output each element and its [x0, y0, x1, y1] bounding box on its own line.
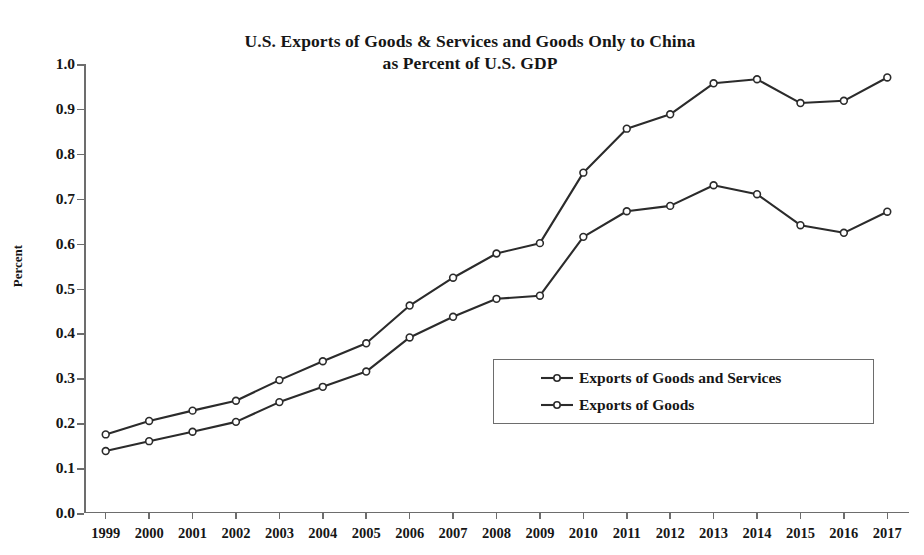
x-tick-label: 2010 [569, 525, 598, 542]
y-tick-label: 0.9 [56, 100, 75, 118]
data-point [797, 222, 804, 229]
data-point [406, 334, 413, 341]
y-tick-mark [77, 109, 84, 111]
x-tick-label: 2004 [308, 525, 337, 542]
y-tick-label: 0.3 [56, 369, 75, 387]
y-tick-mark [77, 333, 84, 335]
y-tick-label: 0.6 [56, 235, 75, 253]
y-tick-label: 1.0 [56, 55, 75, 73]
data-point [450, 313, 457, 320]
data-point [319, 358, 326, 365]
y-tick-mark [77, 244, 84, 246]
x-tick-label: 2005 [352, 525, 381, 542]
legend-marker-icon [540, 372, 574, 384]
data-point [884, 208, 891, 215]
data-point [406, 302, 413, 309]
x-tick-label: 2016 [829, 525, 858, 542]
data-point [884, 74, 891, 81]
x-tick-label: 2002 [221, 525, 250, 542]
data-point [276, 377, 283, 384]
data-point [667, 111, 674, 118]
x-tick-label: 2009 [525, 525, 554, 542]
data-point [363, 340, 370, 347]
plot-area: 0.00.10.20.30.40.50.60.70.80.91.0 199920… [84, 64, 909, 513]
y-tick-mark [77, 378, 84, 380]
data-point [146, 418, 153, 425]
data-point [189, 407, 196, 414]
data-point [754, 191, 761, 198]
y-tick-mark [77, 64, 84, 66]
data-point [319, 383, 326, 390]
data-point [233, 397, 240, 404]
data-point [623, 125, 630, 132]
y-tick-mark [77, 289, 84, 291]
y-tick-label: 0.4 [56, 324, 75, 342]
y-tick-mark [77, 423, 84, 425]
data-point [754, 76, 761, 83]
x-tick-label: 2006 [395, 525, 424, 542]
series-plot [84, 64, 909, 513]
data-point [840, 97, 847, 104]
y-tick-mark [77, 468, 84, 470]
x-tick-label: 2007 [439, 525, 468, 542]
data-point [363, 368, 370, 375]
data-point [623, 208, 630, 215]
data-point [537, 292, 544, 299]
x-tick-label: 2001 [178, 525, 207, 542]
x-tick-label: 2014 [743, 525, 772, 542]
data-point [667, 202, 674, 209]
x-tick-label: 2012 [656, 525, 685, 542]
x-tick-label: 2017 [873, 525, 902, 542]
legend-marker-icon [540, 399, 574, 411]
data-point [276, 399, 283, 406]
x-tick-label: 2015 [786, 525, 815, 542]
y-tick-mark [77, 199, 84, 201]
x-tick-label: 1999 [91, 525, 120, 542]
legend-item-exports-goods: Exports of Goods [540, 396, 694, 414]
data-point [450, 274, 457, 281]
data-point [580, 169, 587, 176]
y-axis-title: Percent [10, 226, 26, 306]
y-tick-label: 0.0 [56, 504, 75, 522]
y-tick-label: 0.2 [56, 414, 75, 432]
legend-item-exports-goods-and-services: Exports of Goods and Services [540, 369, 781, 387]
y-tick-mark [77, 513, 84, 515]
chart-title-line-1: U.S. Exports of Goods & Services and Goo… [245, 31, 696, 51]
x-tick-label: 2013 [699, 525, 728, 542]
x-tick-label: 2011 [613, 525, 641, 542]
legend-label: Exports of Goods [579, 396, 694, 414]
data-point [797, 100, 804, 107]
y-tick-label: 0.5 [56, 280, 75, 298]
y-tick-mark [77, 154, 84, 156]
x-tick-label: 2000 [135, 525, 164, 542]
data-point [710, 80, 717, 87]
data-point [710, 182, 717, 189]
legend-label: Exports of Goods and Services [579, 369, 781, 387]
data-point [840, 229, 847, 236]
data-point [102, 431, 109, 438]
data-point [580, 233, 587, 240]
chart-container: U.S. Exports of Goods & Services and Goo… [0, 0, 924, 555]
data-point [233, 418, 240, 425]
y-tick-label: 0.8 [56, 145, 75, 163]
data-point [189, 428, 196, 435]
x-tick-label: 2008 [482, 525, 511, 542]
data-point [102, 448, 109, 455]
legend: Exports of Goods and Services Exports of… [493, 359, 874, 424]
data-point [146, 438, 153, 445]
y-tick-label: 0.7 [56, 190, 75, 208]
data-point [537, 240, 544, 247]
x-tick-label: 2003 [265, 525, 294, 542]
y-tick-label: 0.1 [56, 459, 75, 477]
data-point [493, 295, 500, 302]
data-point [493, 250, 500, 257]
